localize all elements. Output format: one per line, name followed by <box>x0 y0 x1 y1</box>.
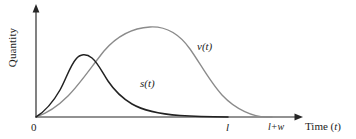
y-axis-label: Quantity <box>7 16 18 80</box>
curve-v <box>36 27 272 117</box>
x-tick-label-l-plus-w: l+w <box>268 122 284 132</box>
origin-tick-label: 0 <box>31 122 37 133</box>
x-axis-label: Time (t) <box>305 121 341 132</box>
arrow-right-icon <box>295 114 304 121</box>
chart-plot-area <box>0 0 356 139</box>
chart-figure: Quantity 0 l l+w Time (t) v(t) s(t) <box>0 0 356 139</box>
x-axis-label-tail: ) <box>337 120 341 132</box>
curve-s-annotation: s(t) <box>140 78 155 89</box>
x-axis-label-text: Time ( <box>305 120 334 132</box>
curve-v-annotation: v(t) <box>197 41 212 52</box>
arrow-up-icon <box>33 4 40 13</box>
x-tick-label-l: l <box>226 122 229 133</box>
